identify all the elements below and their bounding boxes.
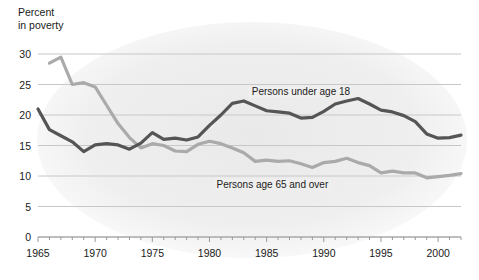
y-axis-tick-labels: 051015202530	[19, 48, 31, 243]
x-axis-tick-label: 1985	[255, 247, 279, 259]
y-axis-tick-label: 25	[19, 79, 31, 91]
x-axis-tick-label: 1965	[26, 247, 50, 259]
x-axis-tick-label: 1975	[141, 247, 165, 259]
y-axis-tick-label: 10	[19, 170, 31, 182]
y-axis-tick-label: 5	[25, 201, 31, 213]
annotation-over65: Persons age 65 and over	[216, 179, 328, 190]
x-axis-tick-label: 1990	[312, 247, 336, 259]
background-glow	[37, 22, 467, 258]
y-axis-tick-label: 0	[25, 231, 31, 243]
x-axis-tick-label: 1970	[83, 247, 107, 259]
y-axis-tick-label: 15	[19, 140, 31, 152]
y-axis-tick-label: 30	[19, 48, 31, 60]
y-axis-tick-label: 20	[19, 109, 31, 121]
annotation-under18: Persons under age 18	[252, 86, 351, 97]
x-axis-tick-label: 1980	[198, 247, 222, 259]
x-axis-tick-label: 1995	[369, 247, 393, 259]
x-axis-tick-label: 2000	[426, 247, 450, 259]
chart-canvas: 051015202530 196519701975198019851990199…	[0, 0, 479, 280]
poverty-rate-line-chart: Percent in poverty 051015202530 19651970…	[0, 0, 479, 280]
